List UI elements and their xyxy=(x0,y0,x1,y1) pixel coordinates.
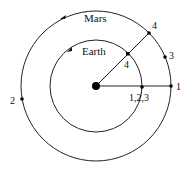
mars-label: Mars xyxy=(84,12,107,24)
orbit-diagram: Mars Earth 1 2 3 4 4 1,2,3 xyxy=(0,0,186,174)
label-mars-2: 2 xyxy=(10,95,15,106)
point-mars-2 xyxy=(20,97,24,101)
label-mars-1: 1 xyxy=(176,81,181,92)
sun xyxy=(92,82,100,90)
point-mars-1 xyxy=(169,84,173,88)
point-mars-3 xyxy=(163,55,167,59)
point-earth-4 xyxy=(126,52,130,56)
label-earth-123: 1,2,3 xyxy=(129,92,149,103)
point-earth-123 xyxy=(140,85,144,89)
point-mars-4 xyxy=(147,31,151,35)
label-mars-3: 3 xyxy=(169,50,174,61)
earth-label: Earth xyxy=(82,45,106,57)
label-mars-4: 4 xyxy=(152,20,157,31)
mars-direction-arrow-icon xyxy=(60,15,66,19)
label-earth-4: 4 xyxy=(124,59,129,70)
